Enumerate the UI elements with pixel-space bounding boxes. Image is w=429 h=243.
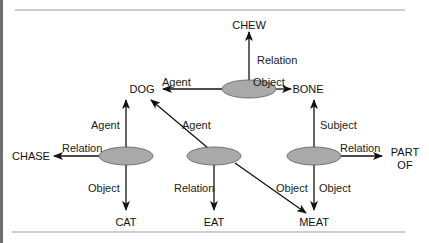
concept-meat: MEAT <box>299 216 329 228</box>
agent-label: Agent <box>162 76 191 88</box>
chew-proposition: Relation Agent Object <box>162 32 297 98</box>
diagram-canvas: Relation Agent Object Agent Relation Obj… <box>0 0 429 243</box>
concept-bone: BONE <box>292 83 323 95</box>
concept-cat: CAT <box>115 216 136 228</box>
proposition-node <box>287 147 341 165</box>
concept-part-of-line1: PART <box>391 146 420 158</box>
chase-proposition: Agent Relation Object <box>54 100 153 210</box>
object-label: Object <box>276 182 308 194</box>
concept-chew: CHEW <box>232 19 266 31</box>
concept-eat: EAT <box>204 216 225 228</box>
agent-label: Agent <box>182 119 211 131</box>
proposition-node <box>187 147 241 165</box>
relation-label: Relation <box>257 54 297 66</box>
concept-chase: CHASE <box>12 150 50 162</box>
object-label: Object <box>319 182 351 194</box>
relation-label: Relation <box>62 142 102 154</box>
semantic-network-diagram: Relation Agent Object Agent Relation Obj… <box>0 0 429 243</box>
eat-proposition: Agent Relation Object <box>151 100 308 213</box>
concept-dog: DOG <box>129 83 154 95</box>
subject-label: Subject <box>320 119 357 131</box>
relation-label: Relation <box>174 182 214 194</box>
agent-label: Agent <box>91 119 120 131</box>
proposition-node <box>99 147 153 165</box>
object-label: Object <box>253 76 285 88</box>
object-label: Object <box>88 182 120 194</box>
relation-label: Relation <box>340 142 380 154</box>
concept-part-of-line2: OF <box>397 159 413 171</box>
